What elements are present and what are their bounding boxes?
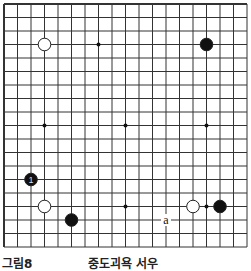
- star-point: [124, 205, 128, 209]
- star-point: [124, 124, 128, 128]
- figure-caption-label: 그림8: [2, 254, 32, 271]
- star-point: [205, 205, 209, 209]
- black-stone: [214, 200, 227, 213]
- point-label-a: a: [163, 213, 169, 227]
- figure-caption-title: 중도괴욕 서우: [88, 254, 158, 271]
- star-point: [43, 124, 47, 128]
- star-point: [97, 43, 101, 47]
- white-stone: [38, 38, 51, 51]
- black-stone: 1: [25, 173, 38, 186]
- white-stone: [187, 200, 200, 213]
- black-stone: [200, 38, 213, 51]
- stone-move-number: 1: [28, 175, 33, 185]
- black-stone: [65, 214, 78, 227]
- go-board: 1 a: [0, 0, 251, 252]
- white-stone: [38, 200, 51, 213]
- star-point: [205, 124, 209, 128]
- board-marks: a: [161, 213, 171, 227]
